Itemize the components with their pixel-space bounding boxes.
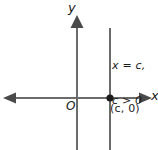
y-axis-label: y — [68, 1, 76, 15]
line-equation-first-line: x = c, — [112, 60, 145, 72]
x-axis-label: x — [151, 89, 158, 103]
y-axis-up-arrow-icon — [71, 15, 84, 28]
point-c-zero-label: (c, 0) — [110, 103, 140, 115]
line-equation-annotation: x = c, c > 0 — [112, 36, 145, 131]
coordinate-plane-figure: y x O x = c, c > 0 (c, 0) — [0, 0, 158, 150]
x-axis-left-arrow-icon — [3, 93, 16, 104]
origin-label: O — [66, 100, 76, 113]
